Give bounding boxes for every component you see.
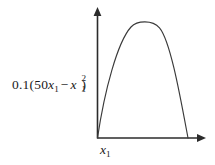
ylabel-term2-subscript: 1: [81, 85, 86, 94]
ylabel-term2-variable: x: [70, 77, 76, 92]
figure-container: 0.1(50x1−x122) x1: [0, 0, 215, 165]
ylabel-operator: −: [59, 77, 70, 92]
y-axis-label: 0.1(50x1−x122): [12, 78, 86, 94]
ylabel-term1-coefficient: 50: [34, 77, 48, 92]
ylabel-term2-superscript: 2: [81, 74, 86, 83]
ylabel-term2: x122: [70, 78, 81, 92]
x-axis-arrowhead-icon: [197, 134, 206, 142]
ylabel-coefficient: 0.1: [12, 77, 29, 92]
y-axis-arrowhead-icon: [94, 7, 102, 16]
xlabel-subscript: 1: [106, 149, 111, 159]
data-curve: [98, 22, 189, 138]
x-axis-label: x1: [100, 143, 111, 159]
